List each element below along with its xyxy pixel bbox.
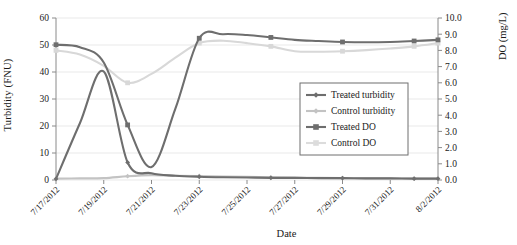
data-point-marker (436, 37, 441, 42)
legend-label: Control DO (331, 138, 376, 148)
x-axis-ticks: 7/17/20127/19/20127/21/20127/23/20127/25… (29, 180, 444, 217)
data-point-marker (268, 175, 273, 180)
x-axis-tick-label: 7/17/2012 (29, 184, 62, 217)
data-point-marker (340, 49, 345, 54)
y-axis-right-tick-label: 9.0 (445, 30, 457, 40)
data-point-marker (197, 36, 202, 41)
y-axis-right-tick-label: 5.0 (445, 94, 457, 104)
chart-plot-area: 0102030405060 0.01.02.03.04.05.06.07.08.… (0, 0, 517, 245)
data-point-marker (125, 123, 130, 128)
y-axis-right-ticks: 0.01.02.03.04.05.06.07.08.09.010.0 (438, 13, 462, 185)
legend-label: Treated turbidity (331, 90, 395, 100)
chart-figure: Turbidity (FNU) DO (mg/L) Date 010203040… (0, 0, 517, 245)
y-axis-left-ticks: 0102030405060 (40, 13, 57, 185)
y-axis-right-tick-label: 8.0 (445, 46, 457, 56)
y-axis-left-tick-label: 0 (44, 175, 49, 185)
x-axis-tick-label: 8/2/2012 (414, 184, 444, 214)
data-point-marker (268, 35, 273, 40)
x-axis-tick-label: 7/25/2012 (220, 184, 253, 217)
y-axis-left-tick-label: 10 (40, 148, 50, 158)
y-axis-left-tick-label: 60 (40, 13, 50, 23)
y-axis-right-tick-label: 10.0 (445, 13, 462, 23)
legend-label: Control turbidity (331, 106, 395, 116)
y-axis-left-tick-label: 40 (40, 67, 50, 77)
y-axis-right-tick-label: 3.0 (445, 127, 457, 137)
data-point-marker (54, 42, 59, 47)
data-point-marker (313, 140, 319, 146)
data-point-marker (340, 40, 345, 45)
chart-legend: Treated turbidityControl turbidityTreate… (300, 83, 408, 155)
x-axis-tick-label: 7/21/2012 (124, 184, 157, 217)
y-axis-left-tick-label: 50 (40, 40, 50, 50)
data-point-marker (268, 44, 273, 49)
y-axis-right-tick-label: 1.0 (445, 159, 457, 169)
data-point-marker (54, 48, 59, 53)
x-axis-tick-label: 7/23/2012 (172, 184, 205, 217)
data-point-marker (125, 80, 130, 85)
y-axis-left-tick-label: 20 (40, 121, 50, 131)
y-axis-right-tick-label: 7.0 (445, 62, 457, 72)
y-axis-right-tick-label: 4.0 (445, 111, 457, 121)
x-axis-tick-label: 7/19/2012 (76, 184, 109, 217)
data-point-marker (412, 44, 417, 49)
data-point-marker (313, 124, 319, 130)
data-point-marker (412, 39, 417, 44)
y-axis-right-tick-label: 6.0 (445, 78, 457, 88)
x-axis-tick-label: 7/29/2012 (315, 184, 348, 217)
y-axis-right-tick-label: 2.0 (445, 143, 457, 153)
series-line (56, 41, 438, 83)
data-point-marker (125, 174, 130, 179)
y-axis-right-tick-label: 0.0 (445, 175, 457, 185)
y-axis-left-tick-label: 30 (40, 94, 50, 104)
x-axis-tick-label: 7/31/2012 (363, 184, 396, 217)
x-axis-tick-label: 7/27/2012 (267, 184, 300, 217)
legend-label: Treated DO (331, 122, 376, 132)
